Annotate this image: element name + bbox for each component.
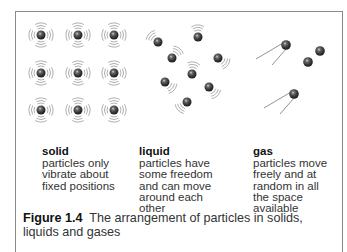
particle [188,70,197,79]
particle-illustration [0,0,347,140]
liquid-label: liquid particles have some freedom and c… [139,146,213,214]
solid-label: solid particles only vibrate about fixed… [42,146,115,192]
particle [161,78,170,87]
particle [154,38,163,47]
gas-particles [256,40,325,114]
particle [110,106,119,115]
particle [168,54,177,63]
particle [289,89,299,99]
liquid-description: particles have some freedom and can move… [139,158,213,214]
gas-title: gas [253,146,327,157]
liquid-particles [146,25,230,114]
solid-description: particles only vibrate about fixed posit… [42,158,115,192]
solid-title: solid [42,146,115,157]
particle [110,69,119,78]
particle [303,57,313,67]
particle [74,69,83,78]
particle [110,31,119,40]
figure-label: Figure 1.4 [23,211,83,225]
solid-particles [29,23,126,122]
particle [194,33,203,42]
particle [37,106,46,115]
particle [74,31,83,40]
liquid-title: liquid [139,146,213,157]
particle [214,54,223,63]
particle [37,69,46,78]
figure-caption: Figure 1.4 The arrangement of particles … [23,211,339,239]
particle [315,46,325,56]
particle [37,31,46,40]
particle [205,83,214,92]
gas-description: particles move freely and at random in a… [253,158,327,214]
particle [281,40,291,50]
particle [74,106,83,115]
gas-label: gas particles move freely and at random … [253,146,327,214]
particle [183,98,192,107]
